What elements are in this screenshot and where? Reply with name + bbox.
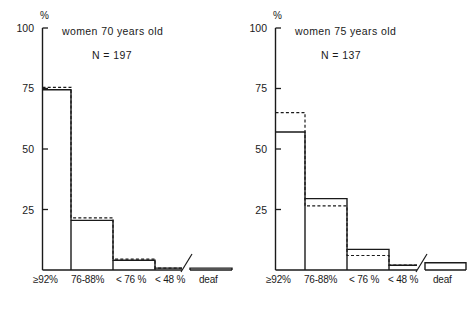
bar-deaf-solid (425, 263, 466, 270)
chart-panel-women-70: women 70 years old N = 197 % 100 75 50 2… (0, 0, 234, 312)
bar-outline-dashed-series (43, 87, 183, 268)
x-tick-label-ge92: ≥92% (33, 274, 58, 285)
x-tick-label-deaf: deaf (199, 274, 218, 285)
plot-area-women-70 (0, 0, 234, 312)
bar-outline-solid-series (276, 132, 418, 265)
x-tick-label-ge92: ≥92% (266, 274, 291, 285)
x-tick-label-deaf: deaf (433, 274, 452, 285)
figure-two-panel-histogram: women 70 years old N = 197 % 100 75 50 2… (0, 0, 469, 312)
x-tick-label-lt48: < 48 % (388, 274, 418, 285)
x-tick-label-lt76: < 76 % (349, 274, 379, 285)
x-tick-label-lt76: < 76 % (116, 274, 146, 285)
plot-area-women-75 (235, 0, 469, 312)
chart-panel-women-75: women 75 years old N = 137 % 100 75 50 2… (235, 0, 469, 312)
bar-outline-solid-series (43, 90, 183, 268)
bar-outline-dashed-series (276, 113, 418, 266)
x-tick-label-76-88: 76-88% (71, 274, 104, 285)
x-tick-label-lt48: < 48 % (155, 274, 185, 285)
x-tick-label-76-88: 76-88% (304, 274, 337, 285)
